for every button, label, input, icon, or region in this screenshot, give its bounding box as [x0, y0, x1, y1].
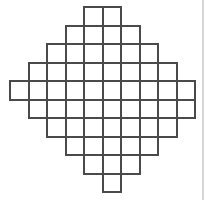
grid-cell: [120, 80, 141, 101]
grid-cell: [28, 62, 48, 82]
grid-cell: [46, 117, 67, 138]
grid-cell: [120, 43, 141, 64]
grid-cell: [102, 43, 122, 64]
grid-cell: [28, 99, 48, 119]
grid-cell: [139, 117, 159, 138]
grid-cell: [65, 62, 85, 82]
grid-cell: [46, 99, 67, 119]
grid-cell: [176, 80, 196, 101]
grid-cell: [139, 80, 159, 101]
grid-cell: [157, 99, 178, 119]
grid-cell: [102, 173, 122, 193]
grid-cell: [176, 99, 196, 119]
grid-cell: [28, 80, 48, 101]
grid-cell: [65, 136, 85, 156]
grid-cell: [65, 117, 85, 138]
grid-cell: [139, 136, 159, 156]
grid-cell: [139, 99, 159, 119]
grid-cell: [139, 62, 159, 82]
grid-cell: [83, 154, 104, 175]
grid-cell: [83, 62, 104, 82]
grid-cell: [139, 43, 159, 64]
grid-cell: [65, 99, 85, 119]
grid-cell: [102, 6, 122, 27]
grid-cell: [65, 80, 85, 101]
grid-cell: [83, 43, 104, 64]
grid-cell: [83, 6, 104, 27]
grid-cell: [157, 80, 178, 101]
grid-cell: [102, 62, 122, 82]
grid-cell: [120, 154, 141, 175]
grid-cell: [65, 43, 85, 64]
grid-cell: [102, 25, 122, 45]
grid-cell: [120, 117, 141, 138]
grid-cell: [46, 62, 67, 82]
grid-cell: [83, 80, 104, 101]
grid-cell: [120, 25, 141, 45]
grid-cell: [102, 154, 122, 175]
grid-cell: [65, 25, 85, 45]
grid-cell: [46, 43, 67, 64]
grid-cell: [120, 62, 141, 82]
grid-cell: [83, 136, 104, 156]
grid-cell: [102, 99, 122, 119]
grid-cell: [9, 80, 30, 101]
grid-cell: [83, 25, 104, 45]
grid-cell: [83, 117, 104, 138]
grid-cell: [102, 136, 122, 156]
grid-cell: [102, 117, 122, 138]
grid-cell: [83, 99, 104, 119]
grid-cell: [102, 80, 122, 101]
grid-cell: [46, 80, 67, 101]
grid-cell: [120, 99, 141, 119]
grid-cell: [120, 136, 141, 156]
grid-cell: [157, 62, 178, 82]
right-edge-divider: [202, 0, 204, 200]
grid-cell: [157, 117, 178, 138]
grid-diagram: [0, 0, 208, 200]
